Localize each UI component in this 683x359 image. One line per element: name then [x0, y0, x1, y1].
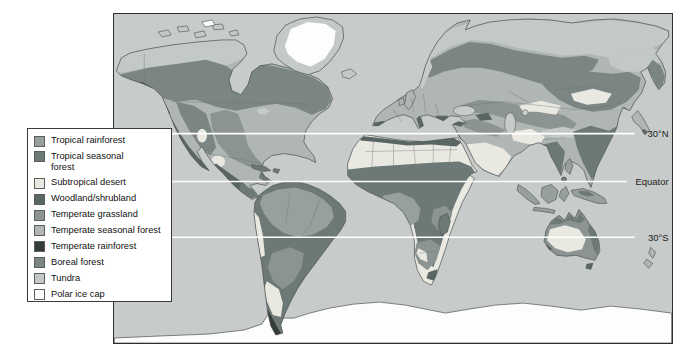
legend-item-boreal-forest: Boreal forest	[34, 257, 166, 269]
legend-item-polar-ice-cap: Polar ice cap	[34, 289, 166, 301]
swatch-polar-ice-cap	[34, 289, 45, 300]
legend-item-temperate-rainforest: Temperate rainforest	[34, 241, 166, 253]
legend-item-tropical-rainforest: Tropical rainforest	[34, 135, 166, 147]
swatch-temperate-rainforest	[34, 241, 45, 252]
swatch-subtropical-desert	[34, 178, 45, 189]
legend-item-temperate-seasonal-forest: Temperate seasonal forest	[34, 225, 166, 237]
biome-legend: Tropical rainforest Tropical seasonal fo…	[27, 128, 172, 302]
label-30n: 30°N	[647, 128, 668, 139]
swatch-boreal-forest	[34, 257, 45, 268]
legend-item-subtropical-desert: Subtropical desert	[34, 177, 166, 189]
legend-item-tropical-seasonal-forest: Tropical seasonal forest	[34, 151, 166, 173]
aral-sea	[522, 110, 528, 116]
world-biome-map: 30°N Equator 30°S	[114, 14, 672, 343]
legend-label: Temperate rainforest	[51, 241, 136, 252]
world-map-frame: 30°N Equator 30°S	[113, 13, 673, 344]
black-sea	[453, 106, 475, 116]
legend-label: Tundra	[51, 273, 80, 284]
swatch-temperate-seasonal-forest	[34, 225, 45, 236]
swatch-tundra	[34, 273, 45, 284]
legend-label: Temperate grassland	[51, 209, 138, 220]
legend-item-temperate-grassland: Temperate grassland	[34, 209, 166, 221]
legend-label: Boreal forest	[51, 257, 104, 268]
legend-label: Polar ice cap	[51, 289, 105, 300]
legend-label: Woodland/shrubland	[51, 193, 136, 204]
legend-label: Tropical rainforest	[51, 135, 125, 146]
caspian-sea	[505, 113, 516, 135]
legend-label: Subtropical desert	[51, 177, 126, 188]
swatch-woodland-shrubland	[34, 194, 45, 205]
na-desert-great-basin	[197, 129, 207, 143]
swatch-tropical-rainforest	[34, 136, 45, 147]
legend-label: Tropical seasonal forest	[51, 151, 133, 173]
swatch-temperate-grassland	[34, 210, 45, 221]
figure-canvas: 30°N Equator 30°S Tropical rainforest Tr…	[0, 0, 683, 359]
legend-item-woodland-shrubland: Woodland/shrubland	[34, 193, 166, 205]
swatch-tropical-seasonal-forest	[34, 151, 45, 162]
label-30s: 30°S	[648, 232, 669, 243]
label-equator: Equator	[635, 176, 668, 187]
legend-item-tundra: Tundra	[34, 273, 166, 285]
legend-label: Temperate seasonal forest	[51, 225, 161, 236]
